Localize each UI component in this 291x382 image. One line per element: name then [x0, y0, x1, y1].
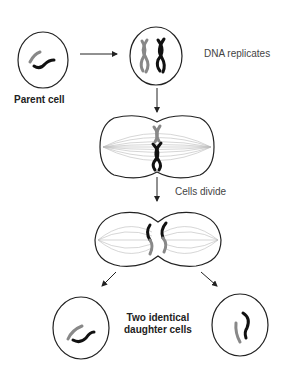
chromosome-dark-x [157, 39, 164, 72]
daughter-label-line1: Two identical [124, 312, 192, 324]
daughter-cell-left [53, 297, 109, 359]
cells-divide-label: Cells divide [175, 186, 226, 197]
chromosome-light-x [141, 40, 148, 72]
parent-cell-label: Parent cell [14, 94, 65, 106]
arrow-down-left-icon [102, 272, 116, 286]
parent-cell [18, 32, 68, 88]
daughter-cells-label: Two identical daughter cells [124, 312, 192, 336]
daughter-label-line2: daughter cells [124, 324, 192, 336]
spindle-fibers [98, 227, 218, 254]
arrow-down-right-icon [201, 272, 217, 286]
daughter-cell-right [212, 294, 268, 356]
metaphase-cell [100, 116, 214, 178]
dna-replicates-label: DNA replicates [204, 48, 270, 59]
replication-cell [130, 27, 182, 85]
dividing-cell [95, 212, 221, 266]
chromosome-light [30, 52, 40, 62]
chromosome-dark [34, 60, 54, 68]
